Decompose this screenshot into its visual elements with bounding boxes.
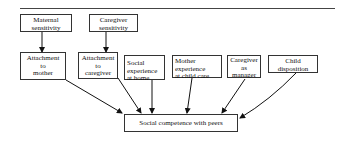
node-label-line: mother bbox=[23, 70, 63, 78]
node-label-line: caregiver bbox=[81, 70, 115, 78]
node-label: Social competence with peers bbox=[127, 120, 235, 128]
node-mother-experience-at-child-care: Mother experience at child care bbox=[172, 55, 222, 78]
node-label-line: manager bbox=[229, 72, 259, 80]
node-label-line: disposition bbox=[271, 66, 315, 74]
node-label-line: at child care bbox=[175, 73, 219, 81]
node-attachment-to-mother: Attachment to mother bbox=[20, 52, 66, 80]
node-maternal-sensitivity: Maternal sensitivity bbox=[20, 14, 72, 32]
node-caregiver-sensitivity: Caregiver sensitivity bbox=[89, 14, 138, 32]
node-child-disposition: Child disposition bbox=[268, 55, 318, 73]
arrow-attachment-caregiver-to-outcome bbox=[118, 78, 141, 113]
node-social-competence-with-peers: Social competence with peers bbox=[124, 114, 238, 132]
node-caregiver-as-manager: Caregiver as manager bbox=[227, 55, 261, 78]
node-label-line: sensitivity bbox=[92, 25, 135, 33]
arrow-attachment-mother-to-outcome bbox=[66, 80, 122, 113]
node-label-line: at home bbox=[127, 75, 162, 83]
node-social-experience-at-home: Social experience at home bbox=[124, 55, 165, 80]
node-attachment-to-caregiver: Attachment to caregiver bbox=[78, 52, 118, 79]
arrow-mother-childcare-to-outcome bbox=[187, 78, 192, 113]
arrow-caregiver-manager-to-outcome bbox=[222, 79, 245, 113]
arrow-child-disposition-to-outcome bbox=[240, 73, 296, 118]
node-label-line: sensitivity bbox=[23, 25, 69, 33]
